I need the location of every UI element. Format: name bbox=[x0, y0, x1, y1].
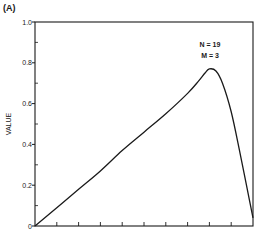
y-tick-label: 0.8 bbox=[22, 59, 32, 66]
y-tick-label: 0.4 bbox=[22, 141, 32, 148]
plot-frame bbox=[35, 22, 253, 226]
axes-box bbox=[35, 22, 253, 226]
annotation-text: N = 19 bbox=[200, 41, 221, 48]
annotation-text: M = 3 bbox=[201, 52, 219, 59]
y-tick-label: 0 bbox=[28, 223, 32, 230]
y-tick-label: 0.6 bbox=[22, 100, 32, 107]
data-curve bbox=[35, 69, 253, 226]
annotations: N = 19M = 3 bbox=[200, 41, 221, 59]
x-axis-ticks bbox=[57, 222, 231, 226]
y-tick-label: 1.0 bbox=[22, 19, 32, 26]
y-axis-label: VALUE bbox=[5, 112, 12, 135]
line-chart: 00.20.40.60.81.0 VALUE N = 19M = 3 bbox=[0, 0, 264, 241]
y-axis-ticks: 00.20.40.60.81.0 bbox=[22, 19, 38, 230]
y-tick-label: 0.2 bbox=[22, 182, 32, 189]
